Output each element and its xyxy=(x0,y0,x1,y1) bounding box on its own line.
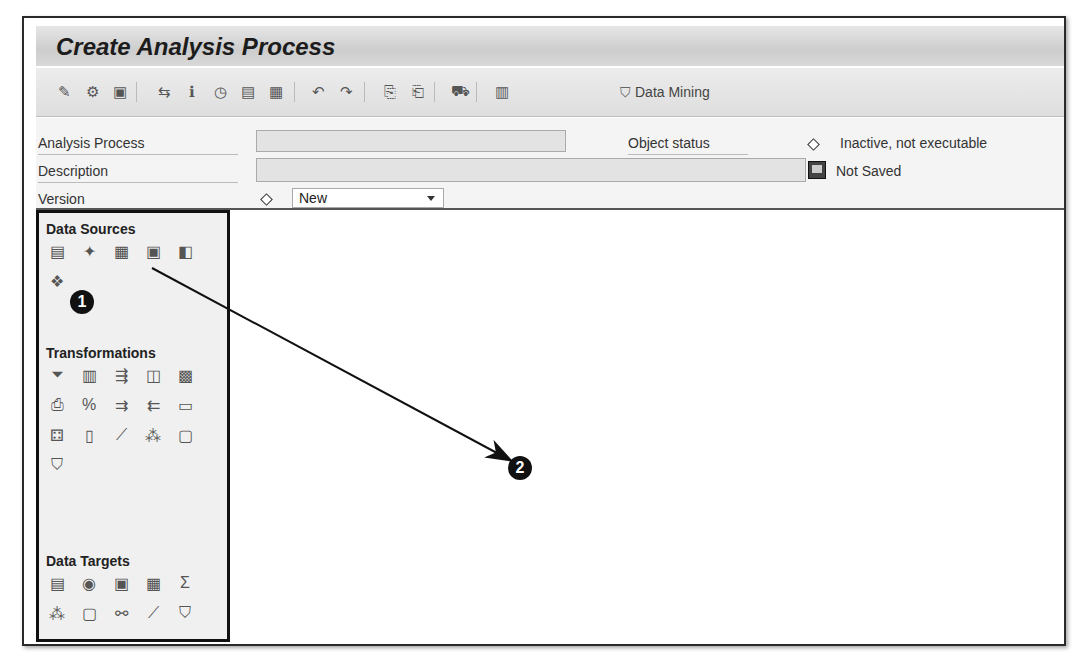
process-canvas[interactable] xyxy=(230,210,1064,644)
save-status-value: Not Saved xyxy=(836,163,901,179)
object-status-icon xyxy=(807,138,820,151)
redo-icon[interactable]: ↷ xyxy=(336,82,356,102)
regression-target-icon[interactable]: ⟋ xyxy=(143,603,163,623)
description-label: Description xyxy=(38,163,108,179)
decision-tree-icon[interactable]: ⁂ xyxy=(143,425,163,445)
version-status-icon xyxy=(260,193,273,206)
dso-icon[interactable]: ◧ xyxy=(175,241,195,261)
label-underline xyxy=(38,182,238,183)
join-icon[interactable]: ▥ xyxy=(79,365,99,385)
psa-icon[interactable]: ▣ xyxy=(143,241,163,261)
infocube-target-icon[interactable]: ▤ xyxy=(47,573,67,593)
sum-target-icon[interactable]: Σ xyxy=(175,573,195,593)
toolbar-separator xyxy=(136,82,137,102)
table-to-list-icon[interactable]: ⇇ xyxy=(143,395,163,415)
clustering-target-icon[interactable]: ⚯ xyxy=(111,603,131,623)
copy-icon[interactable]: ⎘ xyxy=(380,82,400,102)
transform-table-icon[interactable]: ▯ xyxy=(79,425,99,445)
save-status-icon xyxy=(808,161,826,179)
description-field[interactable] xyxy=(256,158,806,182)
document-icon[interactable]: ▤ xyxy=(238,82,258,102)
callout-badge: 1 xyxy=(70,290,94,314)
union-icon[interactable]: ◫ xyxy=(143,365,163,385)
page-title: Create Analysis Process xyxy=(56,33,335,61)
regression-icon[interactable]: ⟋ xyxy=(111,425,131,445)
chevron-down-icon xyxy=(427,196,435,201)
node-palette: Data Sources Transformations Data Target… xyxy=(36,210,230,642)
monitor-icon[interactable]: ▦ xyxy=(266,82,286,102)
data-mining-label: Data Mining xyxy=(635,84,710,100)
data-targets-title: Data Targets xyxy=(46,553,130,569)
callout-badge: 2 xyxy=(508,456,532,480)
version-select[interactable]: New xyxy=(292,188,444,208)
display-change-icon[interactable]: ✎ xyxy=(54,82,74,102)
version-label: Version xyxy=(38,191,85,207)
percent-icon[interactable]: % xyxy=(79,395,99,415)
transport-icon[interactable]: ⛟ xyxy=(450,82,470,102)
dso-target-icon[interactable]: ◉ xyxy=(79,573,99,593)
label-underline xyxy=(628,154,748,155)
query-icon[interactable]: ❖ xyxy=(47,271,67,291)
data-sources-title: Data Sources xyxy=(46,221,135,237)
multiprovider-icon[interactable]: ✦ xyxy=(79,241,99,261)
abap-routine-icon[interactable]: ▭ xyxy=(175,395,195,415)
aggregation-icon[interactable]: ⎙ xyxy=(47,395,67,415)
filter-icon[interactable]: ⏷ xyxy=(47,365,67,385)
sort-icon[interactable]: ▩ xyxy=(175,365,195,385)
header-form: Analysis Process Description Version New… xyxy=(36,118,1064,208)
transformations-title: Transformations xyxy=(46,345,156,361)
object-status-label: Object status xyxy=(628,135,710,151)
paste-icon[interactable]: ⎗ xyxy=(408,82,428,102)
prediction-icon[interactable]: ▢ xyxy=(175,425,195,445)
toolbar-separator xyxy=(476,82,477,102)
restrict-icon[interactable]: ⚃ xyxy=(47,425,67,445)
label-underline xyxy=(38,154,238,155)
toolbar-separator xyxy=(364,82,365,102)
prediction-target-icon[interactable]: ▢ xyxy=(79,603,99,623)
undo-icon[interactable]: ↶ xyxy=(308,82,328,102)
infocube-icon[interactable]: ▤ xyxy=(47,241,67,261)
toolbar: ⛉ Data Mining ✎⚙▣⇆ℹ◷▤▦↶↷⎘⎗⛟▥ xyxy=(36,68,1064,117)
schedule-icon[interactable]: ◷ xyxy=(210,82,230,102)
table-icon[interactable]: ▥ xyxy=(492,82,512,102)
decision-tree-target-icon[interactable]: ⁂ xyxy=(47,603,67,623)
hierarchy-icon[interactable]: ⇆ xyxy=(154,82,174,102)
analysis-process-field[interactable] xyxy=(256,130,566,152)
info-icon[interactable]: ℹ xyxy=(182,82,202,102)
association-target-icon[interactable]: ⛉ xyxy=(175,603,195,623)
layout-icon[interactable]: ▣ xyxy=(110,82,130,102)
association-icon[interactable]: ⛉ xyxy=(47,455,67,475)
data-mining-button[interactable]: ⛉ Data Mining xyxy=(620,82,710,102)
analysis-process-window: Create Analysis Process ⛉ Data Mining ✎⚙… xyxy=(22,16,1066,646)
toolbar-separator xyxy=(434,82,435,102)
title-bar: Create Analysis Process xyxy=(36,26,1064,66)
toolbar-separator xyxy=(294,82,295,102)
analysis-process-label: Analysis Process xyxy=(38,135,145,151)
crm-target-icon[interactable]: ▦ xyxy=(143,573,163,593)
object-status-value: Inactive, not executable xyxy=(840,135,987,151)
version-value: New xyxy=(299,190,327,206)
psa-target-icon[interactable]: ▣ xyxy=(111,573,131,593)
list-to-table-icon[interactable]: ⇉ xyxy=(111,395,131,415)
projection-icon[interactable]: ⇶ xyxy=(111,365,131,385)
check-icon[interactable]: ⚙ xyxy=(82,82,102,102)
data-mining-icon: ⛉ xyxy=(620,84,631,101)
database-table-icon[interactable]: ▦ xyxy=(111,241,131,261)
